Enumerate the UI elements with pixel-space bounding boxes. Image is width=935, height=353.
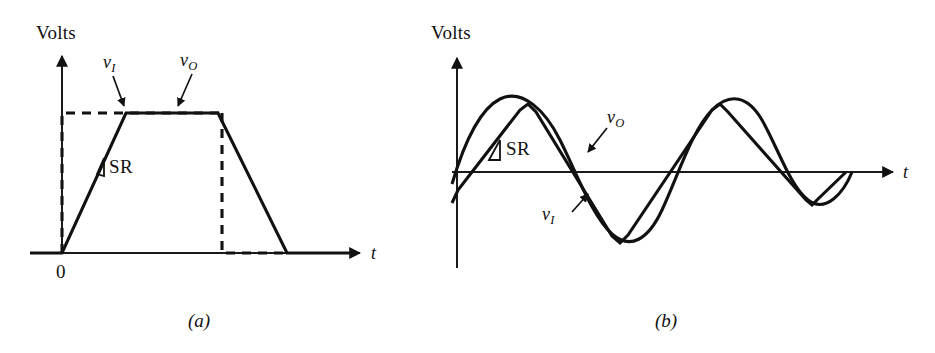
panel-a (30, 56, 360, 253)
panel-a-vi-curve (62, 113, 222, 253)
panel-a-vi-leader-arrow (113, 76, 124, 106)
panel-a-vo-label-sub: O (188, 59, 197, 73)
panel-b-caption: (b) (655, 311, 677, 330)
panel-a-sr-label: SR (109, 157, 133, 176)
panel-b-vo-leader-arrow (588, 128, 607, 152)
panel-a-vo-label: vO (180, 51, 197, 69)
panel-b-vi-label-base: v (542, 204, 550, 224)
panel-a-vo-leader-arrow (178, 74, 192, 106)
panel-b-vi-label: vI (542, 205, 554, 223)
panel-b-vo-label: vO (607, 108, 624, 126)
panel-b (452, 58, 893, 268)
panel-b-x-axis-label: t (903, 163, 908, 181)
panel-b-sr-label: SR (506, 139, 530, 158)
panel-b-vo-label-base: v (607, 107, 615, 127)
panel-b-y-axis-label: Volts (431, 23, 471, 42)
panel-a-x-axis-label: t (371, 244, 376, 262)
panel-a-origin-label: 0 (56, 262, 66, 281)
panel-b-vi-leader-arrow (572, 194, 588, 212)
figure-svg (0, 0, 935, 353)
panel-a-vi-label-sub: I (111, 61, 115, 75)
figure-root: Volts t 0 SR vI vO (a) Volts t SR vO vI … (0, 0, 935, 353)
panel-a-vo-label-base: v (180, 50, 188, 70)
panel-a-vi-label: vI (103, 53, 115, 71)
panel-a-vi-fall (222, 113, 290, 253)
panel-a-y-axis-label: Volts (36, 23, 76, 42)
panel-a-vo-curve (30, 113, 352, 253)
panel-b-vo-label-sub: O (615, 116, 624, 130)
panel-a-caption: (a) (188, 311, 210, 330)
panel-a-vi-label-base: v (103, 52, 111, 72)
panel-b-vi-label-sub: I (550, 213, 554, 227)
